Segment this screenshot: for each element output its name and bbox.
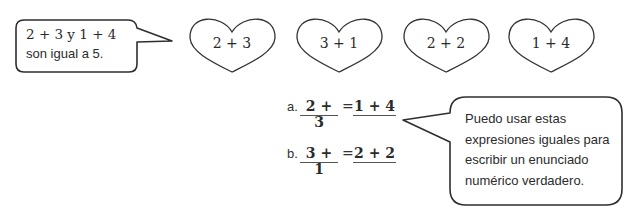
right-bubble-line-1: Puedo usar estas (465, 109, 615, 130)
equals-sign: = (342, 98, 354, 114)
right-bubble-line-3: escribir un enunciado (465, 150, 615, 171)
equation-label: b. (287, 146, 298, 161)
right-bubble-line-4: numérico verdadero. (465, 171, 615, 192)
heart-label: 2 + 3 (187, 35, 277, 51)
heart-label: 2 + 2 (401, 35, 491, 51)
left-bubble-line-1: 2 + 3 y 1 + 4 (26, 25, 116, 44)
equals-sign: = (342, 145, 354, 161)
equation-label: a. (287, 99, 298, 114)
equation-right-blank[interactable]: 1 + 4 (353, 98, 396, 116)
right-speech-bubble-text: Puedo usar estas expresiones iguales par… (465, 109, 615, 191)
right-bubble-line-2: expresiones iguales para (465, 130, 615, 151)
left-speech-bubble-text: 2 + 3 y 1 + 4 son igual a 5. (26, 25, 116, 63)
worksheet: 2 + 3 y 1 + 4 son igual a 5. 2 + 3 3 + 1… (0, 0, 634, 219)
equation-left-blank[interactable]: 3 + 1 (300, 145, 338, 163)
left-bubble-line-2: son igual a 5. (26, 44, 116, 63)
heart-label: 1 + 4 (506, 35, 596, 51)
heart-label: 3 + 1 (294, 35, 384, 51)
equation-left-blank[interactable]: 2 + 3 (300, 98, 338, 116)
equation-right-blank[interactable]: 2 + 2 (353, 145, 396, 163)
